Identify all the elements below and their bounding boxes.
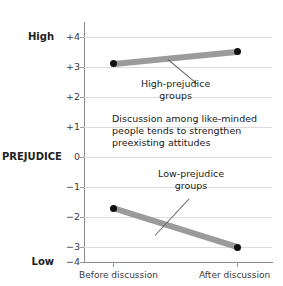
chart-figure: +4 +3 +2 +1 0 −1 −2 −3 −4 High Low PREJU… — [0, 0, 283, 286]
ytick-mark-zero — [80, 157, 84, 158]
ytick-mark-minus3 — [80, 247, 84, 248]
ytick-label-plus2: +2 — [58, 92, 80, 102]
gridline-zero — [84, 157, 272, 158]
center-note-line3: preexisting attitudes — [112, 137, 262, 149]
data-point-high-before — [110, 60, 117, 67]
axis-anchor-low: Low — [22, 256, 54, 267]
data-point-low-before — [110, 205, 117, 212]
ytick-mark-plus1 — [80, 127, 84, 128]
xtick-mark-before — [113, 262, 114, 267]
ytick-mark-plus2 — [80, 97, 84, 98]
ytick-label-minus4: −4 — [58, 257, 80, 267]
gridline-minus2 — [84, 217, 272, 218]
series-label-high-prejudice: High-prejudice groups — [141, 78, 210, 101]
y-tick-labels: +4 +3 +2 +1 0 −1 −2 −3 −4 — [56, 22, 80, 262]
ytick-label-minus2: −2 — [58, 212, 80, 222]
ytick-mark-minus4 — [80, 262, 84, 263]
ytick-label-minus1: −1 — [58, 182, 80, 192]
xtick-mark-after — [237, 262, 238, 267]
ytick-mark-minus1 — [80, 187, 84, 188]
gridline-minus3 — [84, 247, 272, 248]
ytick-label-plus1: +1 — [58, 122, 80, 132]
ytick-label-minus3: −3 — [58, 242, 80, 252]
axis-anchor-high: High — [22, 31, 54, 42]
center-note: Discussion among like-minded people tend… — [112, 113, 262, 149]
series-label-low-line1: Low-prejudice — [158, 168, 224, 180]
gridline-plus4 — [84, 37, 272, 38]
series-label-low-line2: groups — [158, 180, 224, 192]
series-label-high-line2: groups — [141, 90, 210, 102]
series-label-high-line1: High-prejudice — [141, 78, 210, 90]
ytick-label-plus3: +3 — [58, 62, 80, 72]
ytick-mark-minus2 — [80, 217, 84, 218]
y-axis-title: PREJUDICE — [2, 151, 54, 162]
data-point-high-after — [234, 48, 241, 55]
xtick-label-after: After discussion — [199, 270, 270, 280]
series-label-low-prejudice: Low-prejudice groups — [158, 168, 224, 191]
xtick-label-before: Before discussion — [79, 270, 158, 280]
ytick-label-plus4: +4 — [58, 32, 80, 42]
ytick-mark-plus4 — [80, 37, 84, 38]
ytick-mark-plus3 — [80, 67, 84, 68]
center-note-line2: people tends to strengthen — [112, 125, 262, 137]
center-note-line1: Discussion among like-minded — [112, 113, 262, 125]
data-point-low-after — [234, 244, 241, 251]
